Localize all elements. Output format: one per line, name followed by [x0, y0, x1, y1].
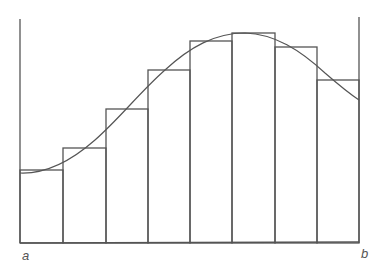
rectangle-3: [106, 109, 148, 243]
riemann-sum-diagram: [0, 0, 381, 279]
label-a: a: [22, 248, 29, 263]
rectangle-8: [317, 80, 359, 243]
label-b: b: [361, 246, 368, 261]
rectangle-4: [148, 70, 190, 243]
rectangle-2: [63, 148, 106, 243]
rectangle-7: [275, 47, 317, 243]
rectangles-group: [20, 33, 359, 243]
rectangle-1: [20, 170, 63, 243]
rectangle-6: [232, 33, 275, 243]
rectangle-5: [190, 41, 232, 243]
